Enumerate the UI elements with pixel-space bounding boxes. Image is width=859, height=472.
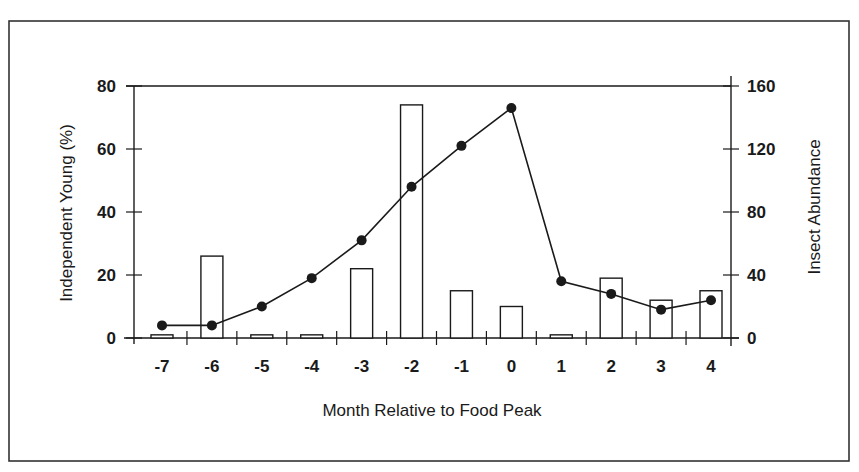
data-point-marker [606,289,616,299]
x-tick-label: -5 [254,357,269,376]
data-point-marker [506,103,516,113]
x-tick-label: 1 [557,357,566,376]
bar [550,335,572,338]
left-y-tick-label: 80 [97,77,116,96]
x-tick-label: 2 [606,357,615,376]
bar [351,269,373,338]
plot-area: 02040608004080120160-7-6-5-4-3-2-101234 [97,76,775,376]
left-y-tick-label: 20 [97,266,116,285]
right-y-tick-label: 40 [747,266,766,285]
right-y-tick-label: 0 [747,329,756,348]
data-point-marker [207,320,217,330]
insect-abundance-line [162,108,711,325]
x-tick-label: 4 [706,357,716,376]
x-axis-label: Month Relative to Food Peak [322,401,542,420]
x-tick-label: -3 [354,357,369,376]
bar [301,335,323,338]
bar [401,105,423,338]
x-tick-label: -2 [404,357,419,376]
left-y-tick-label: 60 [97,140,116,159]
data-point-marker [706,295,716,305]
bar [500,307,522,339]
x-tick-label: -1 [454,357,469,376]
x-tick-label: -6 [204,357,219,376]
bar [151,335,173,338]
outer-frame [9,21,849,461]
data-point-marker [656,305,666,315]
bar [450,291,472,338]
bar [600,278,622,338]
x-tick-label: -4 [304,357,320,376]
data-point-marker [407,182,417,192]
x-tick-label: 3 [656,357,665,376]
left-y-tick-label: 40 [97,203,116,222]
data-point-marker [357,235,367,245]
right-y-tick-label: 160 [747,77,775,96]
data-point-marker [456,141,466,151]
data-point-marker [257,302,267,312]
x-tick-label: 0 [507,357,516,376]
chart: 02040608004080120160-7-6-5-4-3-2-101234 … [0,0,859,472]
data-point-marker [556,276,566,286]
bar [251,335,273,338]
data-point-marker [157,320,167,330]
right-y-tick-label: 120 [747,140,775,159]
right-y-tick-label: 80 [747,203,766,222]
y-axis-label-right: Insect Abundance [805,139,824,274]
y-axis-label-left: Independent Young (%) [57,124,76,302]
data-point-marker [307,273,317,283]
left-y-tick-label: 0 [107,329,116,348]
x-tick-label: -7 [154,357,169,376]
